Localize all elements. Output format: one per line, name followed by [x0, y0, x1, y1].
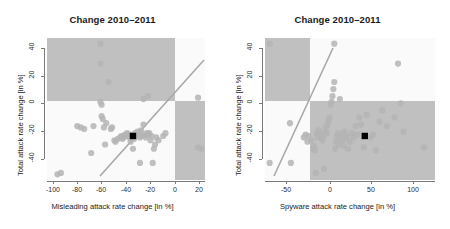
y-tick-label-left: 40 [28, 40, 35, 54]
x-tick-right [330, 181, 331, 184]
scatter-point [145, 93, 151, 99]
x-tick-label-right: 0 [315, 186, 345, 193]
scatter-point [103, 120, 109, 126]
scatter-point [400, 129, 406, 135]
scatter-point [379, 107, 385, 113]
y-tick-right [259, 48, 262, 49]
x-tick-label-right: -50 [271, 186, 301, 193]
mean-marker-left [130, 133, 136, 139]
scatter-point [376, 119, 382, 125]
y-tick-label-right: -40 [246, 151, 253, 165]
scatter-point [140, 122, 146, 128]
scatter-points-left [54, 41, 204, 178]
x-axis-title-right: Spyware attack rate change [in %] [225, 202, 450, 211]
reference-line-identity-left [100, 60, 204, 176]
scatter-point [330, 86, 336, 92]
scatter-point [329, 93, 335, 99]
y-tick-left [41, 159, 44, 160]
scatter-point [90, 123, 96, 129]
x-tick-label-right: 50 [356, 186, 386, 193]
scatter-point [150, 160, 156, 166]
scatter-point [105, 79, 111, 85]
reference-line-identity-right [274, 48, 333, 176]
y-tick-label-right: 20 [246, 68, 253, 82]
x-tick-label-left: 20 [184, 186, 214, 193]
scatter-point [58, 170, 64, 176]
x-tick-right [286, 181, 287, 184]
scatter-point [312, 147, 318, 153]
scatter-point [324, 130, 330, 136]
x-tick-label-right: 100 [398, 186, 428, 193]
reference-line-group-left [100, 60, 204, 176]
x-tick-left [150, 181, 151, 184]
scatter-point [155, 137, 161, 143]
reference-line-group-right [274, 48, 333, 176]
plot-svg-right [225, 0, 450, 229]
scatter-point [328, 99, 334, 105]
y-axis-line-right [262, 48, 263, 159]
y-tick-left [41, 76, 44, 77]
scatter-point [345, 146, 351, 152]
scatter-point [373, 147, 379, 153]
x-tick-left [53, 181, 54, 184]
scatter-point [130, 146, 136, 152]
scatter-point [370, 131, 376, 137]
x-tick-left [199, 181, 200, 184]
y-tick-left [41, 131, 44, 132]
scatter-point [162, 130, 168, 136]
y-axis-line-left [44, 48, 45, 159]
scatter-point [97, 41, 103, 47]
scatter-point [287, 120, 293, 126]
chart-panel-misleading: Change 2010–2011 -100 -80 -60 -40 -20 0 … [0, 0, 225, 229]
scatter-point [88, 150, 94, 156]
mean-marker-square [362, 133, 368, 139]
scatter-point [356, 114, 362, 120]
scatter-points-right [267, 41, 427, 176]
y-tick-left [41, 48, 44, 49]
scatter-point [288, 160, 294, 166]
y-axis-title-left: Total attack rate change [in %] [16, 74, 25, 176]
scatter-point [331, 41, 337, 47]
x-axis-title-left: Misleading attack rate change [in %] [0, 202, 225, 211]
scatter-point [267, 160, 273, 166]
y-tick-right [259, 159, 262, 160]
mean-marker-square [130, 133, 136, 139]
scatter-point [337, 96, 343, 102]
y-tick-label-left: -40 [28, 151, 35, 165]
scatter-point [313, 170, 319, 176]
x-tick-left [175, 181, 176, 184]
scatter-point [308, 137, 314, 143]
x-tick-right [413, 181, 414, 184]
scatter-point [81, 126, 87, 132]
y-tick-label-right: 40 [246, 40, 253, 54]
x-tick-right [371, 181, 372, 184]
scatter-point [395, 60, 401, 66]
x-axis-line-right [265, 181, 435, 182]
x-tick-left [77, 181, 78, 184]
scatter-point [331, 79, 337, 85]
scatter-point [198, 146, 204, 152]
scatter-point [391, 114, 397, 120]
scatter-point [97, 60, 103, 66]
y-tick-right [259, 76, 262, 77]
y-tick-label-right: -20 [246, 123, 253, 137]
y-tick-label-left: -20 [28, 123, 35, 137]
x-tick-left [101, 181, 102, 184]
figure-root: Change 2010–2011 -100 -80 -60 -40 -20 0 … [0, 0, 450, 229]
scatter-point [327, 114, 333, 120]
scatter-point [421, 144, 427, 150]
scatter-point [364, 112, 370, 118]
chart-panel-spyware: Change 2010–2011 -50 0 50 100 Spyware at… [225, 0, 450, 229]
mean-marker-right [362, 133, 368, 139]
scatter-point [398, 100, 404, 106]
y-tick-right [259, 103, 262, 104]
x-tick-left [126, 181, 127, 184]
y-tick-right [259, 131, 262, 132]
scatter-point [109, 124, 115, 130]
scatter-point [99, 102, 105, 108]
scatter-point [195, 95, 201, 101]
scatter-point [354, 131, 360, 137]
scatter-point [137, 160, 143, 166]
y-tick-label-left: 20 [28, 68, 35, 82]
scatter-point [321, 166, 327, 172]
